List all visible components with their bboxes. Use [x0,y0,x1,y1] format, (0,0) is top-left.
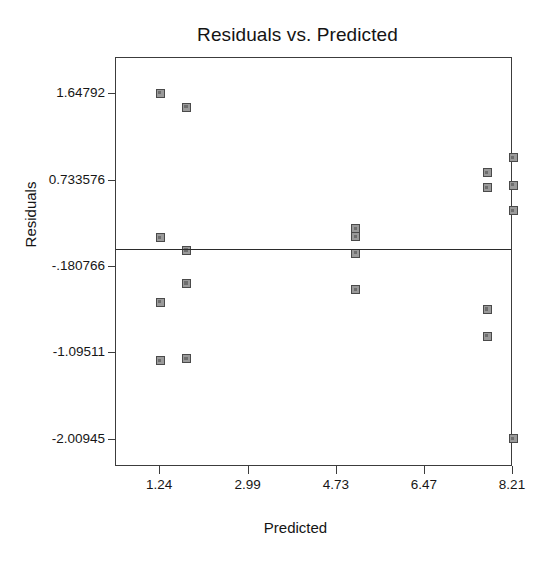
x-axis-tick-label: 6.47 [411,477,437,492]
data-point [156,89,165,98]
plot-area [115,57,512,466]
y-axis-tick [108,93,116,94]
data-point [156,233,165,242]
y-axis-tick-label: -1.09511 [53,344,105,359]
data-point [509,206,518,215]
y-axis-title: Residuals [22,155,39,275]
data-point [182,354,191,363]
y-axis-tick-label: 1.64792 [56,85,105,100]
x-axis-tick-label: 1.24 [146,477,172,492]
residuals-scatter-figure: Residuals vs. Predicted 1.647920.733576-… [0,0,539,563]
x-axis-tick [248,466,249,474]
x-axis-tick-label: 2.99 [235,477,261,492]
y-axis-tick [108,180,116,181]
data-point [182,103,191,112]
y-axis-tick [108,439,116,440]
data-point [509,153,518,162]
y-axis-tick [108,266,116,267]
data-point [509,434,518,443]
data-point [483,305,492,314]
x-axis-tick [512,466,513,474]
y-axis-tick-label: -2.00945 [52,430,105,445]
y-axis-tick-labels: 1.647920.733576-.180766-1.09511-2.00945 [0,0,105,563]
data-point [351,249,360,258]
y-axis-tick-label: 0.733576 [49,171,105,186]
data-point [483,168,492,177]
data-point [182,279,191,288]
x-axis-tick [424,466,425,474]
data-point [483,332,492,341]
data-point [182,246,191,255]
x-axis-title-text: Predicted [264,519,327,536]
y-axis-tick-label: -.180766 [52,257,105,272]
y-axis-tick [108,352,116,353]
x-axis-title: Predicted [0,519,539,536]
data-point [483,183,492,192]
data-point [156,298,165,307]
chart-title-text: Residuals vs. Predicted [197,24,398,46]
x-axis-tick-label: 4.73 [323,477,349,492]
data-point [351,285,360,294]
reference-line [116,249,511,250]
data-point [351,232,360,241]
x-axis-tick-label: 8.21 [499,477,525,492]
data-point [156,356,165,365]
x-axis-tick [336,466,337,474]
data-point [509,181,518,190]
x-axis-ticks: 1.242.994.736.478.21 [115,466,512,506]
x-axis-tick [159,466,160,474]
